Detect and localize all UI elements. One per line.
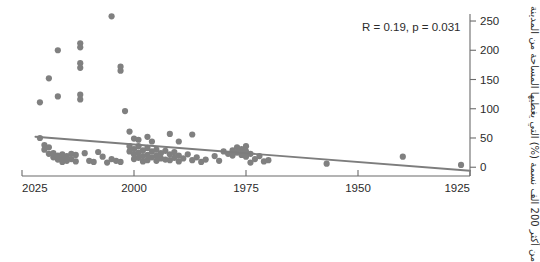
y-tick-label: 200 <box>480 44 499 56</box>
y-tick-label: 250 <box>480 15 499 27</box>
y-axis-label-container: من أكثر 200 الف نسمة (%) التي يغطيها الم… <box>512 6 532 174</box>
data-point <box>185 151 191 157</box>
y-tick-label: 0 <box>480 161 486 173</box>
x-tick-label: 1925 <box>444 182 470 194</box>
data-point <box>100 154 106 160</box>
data-point <box>55 93 61 99</box>
data-point <box>216 158 222 164</box>
data-point <box>167 131 173 137</box>
data-point <box>77 65 83 71</box>
data-point <box>109 13 115 19</box>
data-point <box>46 144 52 150</box>
data-point <box>73 152 79 158</box>
x-tick-label: 2000 <box>121 182 147 194</box>
x-axis-tick-labels: 20252000197519501925 <box>22 182 470 194</box>
data-point <box>37 99 43 105</box>
y-tick-label: 50 <box>480 132 493 144</box>
data-point <box>126 128 132 134</box>
data-point <box>122 108 128 114</box>
x-tick-label: 2025 <box>22 182 48 194</box>
y-axis-tick-labels: 050100150200250 <box>480 15 499 173</box>
data-point <box>46 75 52 81</box>
data-point <box>135 137 141 143</box>
data-point <box>82 150 88 156</box>
y-tick-label: 100 <box>480 103 499 115</box>
x-tick-label: 1950 <box>345 182 371 194</box>
y-tick-label: 150 <box>480 74 499 86</box>
data-point <box>400 154 406 160</box>
data-point <box>144 134 150 140</box>
y-axis: 050100150200250 <box>470 14 499 176</box>
data-point <box>95 149 101 155</box>
data-point <box>117 68 123 74</box>
data-point <box>458 162 464 168</box>
data-point <box>265 157 271 163</box>
data-point <box>212 153 218 159</box>
data-point <box>117 159 123 165</box>
data-point <box>203 157 209 163</box>
x-tick-label: 1975 <box>233 182 259 194</box>
data-point <box>176 138 182 144</box>
data-point <box>77 96 83 102</box>
data-point <box>73 158 79 164</box>
y-axis-label: من أكثر 200 الف نسمة (%) التي يغطيها الم… <box>528 6 540 262</box>
y-axis-tick-marks <box>470 21 476 167</box>
data-point <box>55 47 61 53</box>
correlation-annotation: R = 0.19, p = 0.031 <box>362 21 460 33</box>
data-point <box>189 131 195 137</box>
data-point <box>91 159 97 165</box>
data-point <box>77 44 83 50</box>
x-axis-tick-marks <box>22 170 470 176</box>
data-point <box>324 161 330 167</box>
data-point <box>149 138 155 144</box>
scatter-points <box>37 13 464 168</box>
x-axis: 20252000197519501925 <box>22 170 470 194</box>
data-point <box>194 154 200 160</box>
